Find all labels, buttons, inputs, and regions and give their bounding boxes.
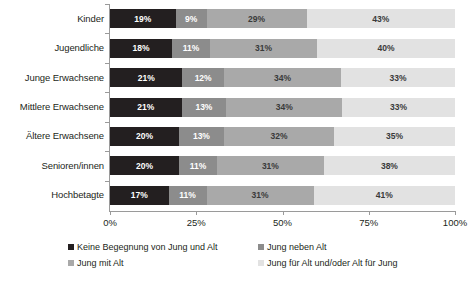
- bar-segment: 31%: [207, 186, 314, 205]
- x-axis-tick-label: 100%: [443, 217, 467, 228]
- bar-segment: 21%: [110, 98, 182, 117]
- segment-value-label: 9%: [185, 14, 197, 24]
- bar-row: 18%11%31%40%: [110, 39, 455, 58]
- y-axis-tick: [105, 151, 109, 152]
- category-label: Ältere Erwachsene: [0, 130, 104, 141]
- segment-value-label: 11%: [190, 161, 207, 171]
- legend-label: Keine Begegnung von Jung und Alt: [77, 242, 218, 252]
- x-axis-tick-label: 50%: [273, 217, 292, 228]
- segment-value-label: 41%: [376, 190, 393, 200]
- y-axis-tick: [105, 181, 109, 182]
- segment-value-label: 35%: [386, 131, 403, 141]
- category-label-column: KinderJugendlicheJunge ErwachseneMittler…: [0, 4, 104, 210]
- category-label: Mittlere Erwachsene: [0, 101, 104, 112]
- legend-swatch: [68, 244, 74, 250]
- x-axis-tick: [283, 211, 284, 215]
- y-axis-tick: [105, 63, 109, 64]
- segment-value-label: 17%: [131, 190, 148, 200]
- stacked-bar-chart: KinderJugendlicheJunge ErwachseneMittler…: [0, 0, 476, 284]
- category-label: Senioren/innen: [0, 160, 104, 171]
- category-label: Hochbetagte: [0, 189, 104, 200]
- bar-segment: 20%: [110, 127, 179, 146]
- legend-label: Jung neben Alt: [267, 242, 327, 252]
- legend-label: Jung mit Alt: [77, 258, 124, 268]
- segment-value-label: 19%: [134, 14, 151, 24]
- segment-value-label: 21%: [138, 73, 155, 83]
- segment-value-label: 43%: [372, 14, 389, 24]
- category-label: Jugendliche: [0, 42, 104, 53]
- legend-item[interactable]: Jung für Alt und/oder Alt für Jung: [258, 258, 398, 268]
- bar-row: 17%11%31%41%: [110, 186, 455, 205]
- bar-segment: 17%: [110, 186, 169, 205]
- legend-swatch: [258, 244, 264, 250]
- bar-segment: 33%: [341, 68, 455, 87]
- bar-segment: 29%: [207, 9, 307, 28]
- bar-segment: 34%: [224, 68, 341, 87]
- bar-segment: 35%: [334, 127, 455, 146]
- x-axis-tick: [110, 211, 111, 215]
- y-axis-tick: [105, 4, 109, 5]
- bar-row: 21%13%34%33%: [110, 98, 455, 117]
- segment-value-label: 21%: [137, 102, 154, 112]
- bar-segment: 20%: [110, 156, 179, 175]
- bar-row: 20%13%32%35%: [110, 127, 455, 146]
- legend-swatch: [258, 260, 264, 266]
- x-axis-tick: [196, 211, 197, 215]
- bar-segment: 11%: [169, 186, 207, 205]
- legend-item[interactable]: Keine Begegnung von Jung und Alt: [68, 242, 218, 252]
- bar-row: 20%11%31%38%: [110, 156, 455, 175]
- chart-legend: Keine Begegnung von Jung und AltJung neb…: [0, 240, 476, 278]
- bar-segment: 33%: [342, 98, 455, 117]
- bar-segment: 21%: [110, 68, 182, 87]
- y-axis-tick: [105, 122, 109, 123]
- category-label: Kinder: [0, 13, 104, 24]
- legend-swatch: [68, 260, 74, 266]
- segment-value-label: 31%: [262, 161, 279, 171]
- legend-item[interactable]: Jung neben Alt: [258, 242, 327, 252]
- bar-segment: 11%: [172, 39, 210, 58]
- bar-segment: 34%: [226, 98, 342, 117]
- bar-segment: 18%: [110, 39, 172, 58]
- segment-value-label: 38%: [381, 161, 398, 171]
- segment-value-label: 31%: [255, 43, 272, 53]
- category-label: Junge Erwachsene: [0, 72, 104, 83]
- segment-value-label: 13%: [195, 102, 212, 112]
- legend-item[interactable]: Jung mit Alt: [68, 258, 124, 268]
- x-axis-tick: [455, 211, 456, 215]
- segment-value-label: 20%: [136, 131, 153, 141]
- x-axis-tick: [369, 211, 370, 215]
- bar-segment: 40%: [317, 39, 455, 58]
- bar-segment: 9%: [176, 9, 207, 28]
- segment-value-label: 29%: [248, 14, 265, 24]
- segment-value-label: 13%: [193, 131, 210, 141]
- x-axis-tick-label: 75%: [359, 217, 378, 228]
- legend-label: Jung für Alt und/oder Alt für Jung: [267, 258, 398, 268]
- bar-segment: 41%: [314, 186, 455, 205]
- bar-segment: 31%: [217, 156, 324, 175]
- segment-value-label: 34%: [276, 102, 293, 112]
- segment-value-label: 18%: [133, 43, 150, 53]
- bar-row: 19%9%29%43%: [110, 9, 455, 28]
- bar-segment: 38%: [324, 156, 455, 175]
- bar-segment: 13%: [182, 98, 226, 117]
- segment-value-label: 32%: [271, 131, 288, 141]
- segment-value-label: 11%: [179, 190, 196, 200]
- bar-segment: 19%: [110, 9, 176, 28]
- bar-segment: 31%: [210, 39, 317, 58]
- y-axis-tick: [105, 33, 109, 34]
- segment-value-label: 20%: [136, 161, 153, 171]
- segment-value-label: 33%: [390, 102, 407, 112]
- segment-value-label: 33%: [390, 73, 407, 83]
- bar-row: 21%12%34%33%: [110, 68, 455, 87]
- x-axis-tick-label: 0%: [103, 217, 117, 228]
- segment-value-label: 34%: [274, 73, 291, 83]
- segment-value-label: 31%: [252, 190, 269, 200]
- segment-value-label: 11%: [183, 43, 200, 53]
- segment-value-label: 40%: [377, 43, 394, 53]
- segment-value-label: 12%: [195, 73, 212, 83]
- bar-segment: 43%: [307, 9, 455, 28]
- bar-segment: 13%: [179, 127, 224, 146]
- bar-segment: 32%: [224, 127, 334, 146]
- x-axis-tick-label: 25%: [187, 217, 206, 228]
- plot-area: 19%9%29%43%18%11%31%40%21%12%34%33%21%13…: [110, 4, 455, 210]
